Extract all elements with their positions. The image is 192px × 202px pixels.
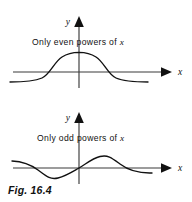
even-panel-caption-variable: x	[119, 37, 125, 47]
even-x-axis-arrowhead	[161, 67, 172, 77]
figure-caption: Fig. 16.4	[8, 184, 52, 196]
odd-x-axis-label: x	[177, 163, 183, 173]
even-panel-caption-text: Only even powers of	[32, 37, 117, 47]
odd-panel-caption-text: Only odd powers of	[37, 133, 118, 143]
odd-x-axis-arrowhead	[161, 163, 172, 173]
even-panel-caption: Only even powers of x	[32, 37, 125, 47]
odd-panel-caption: Only odd powers of x	[37, 133, 125, 143]
odd-powers-curve	[12, 156, 152, 179]
odd-panel-caption-variable: x	[119, 133, 125, 143]
figure-container: y x Only even powers of x y x O	[0, 0, 192, 202]
odd-y-axis-arrowhead	[74, 112, 84, 123]
even-y-axis-arrowhead	[74, 16, 84, 27]
odd-y-axis-label: y	[65, 113, 71, 123]
even-x-axis-label: x	[177, 67, 183, 77]
even-y-axis-label: y	[65, 17, 71, 27]
even-powers-panel: y x Only even powers of x	[10, 16, 183, 88]
odd-powers-panel: y x Only odd powers of x	[12, 112, 183, 184]
figure-graphic: y x Only even powers of x y x O	[0, 0, 192, 202]
